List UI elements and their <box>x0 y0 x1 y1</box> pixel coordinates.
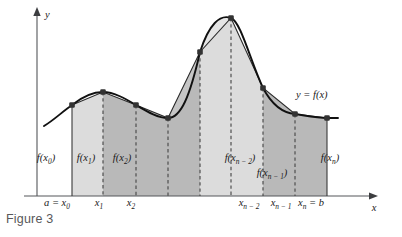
vertex-x4 <box>197 49 203 55</box>
vertex-x1 <box>100 89 106 95</box>
tick-label-x1: x1 <box>94 197 103 211</box>
figure-container: y x y = f(x) f(x0)f(x1)f(x2)f(xn − 2)f(x… <box>0 0 402 237</box>
vertex-xn-1 <box>292 111 298 117</box>
vertex-xn-2 <box>260 85 266 91</box>
vertex-x5 <box>228 15 234 21</box>
tick-label-xn1: xn − 1 <box>270 197 292 211</box>
tick-labels: a = x0x1x2xn − 2xn − 1xn = b <box>44 197 324 211</box>
vertex-x0 <box>69 102 75 108</box>
y-axis-label: y <box>44 9 50 20</box>
vertex-x3 <box>165 115 171 121</box>
x-axis-label: x <box>371 202 377 213</box>
value-label-fx0: f(x0) <box>37 152 56 166</box>
strip-2 <box>136 105 168 196</box>
tick-label-xnb: xn = b <box>297 197 324 211</box>
shaded-strips <box>72 18 327 196</box>
figure-caption: Figure 3 <box>6 212 53 226</box>
vertex-x2 <box>133 102 139 108</box>
x-axis-arrowhead <box>369 192 378 199</box>
vertex-xn <box>324 115 330 121</box>
tick-label-xn2: xn − 2 <box>238 197 260 211</box>
strip-1 <box>103 92 136 196</box>
trapezoidal-rule-figure: y x y = f(x) f(x0)f(x1)f(x2)f(xn − 2)f(x… <box>0 0 402 237</box>
tick-label-x2: x2 <box>126 197 136 211</box>
strip-0 <box>72 92 103 196</box>
tick-label-x0: a = x0 <box>44 197 70 211</box>
curve-label: y = f(x) <box>295 89 328 101</box>
y-axis-arrowhead <box>33 7 40 16</box>
